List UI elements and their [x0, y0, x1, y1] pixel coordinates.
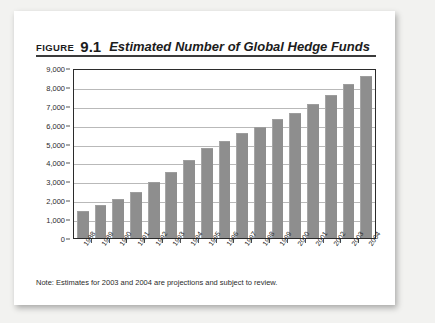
y-axis: 9,0008,0007,0006,0005,0004,0003,0002,000… [36, 69, 70, 239]
bar-1992 [148, 182, 160, 238]
plot-area [73, 69, 376, 239]
bar-slot [216, 70, 234, 238]
bar-slot [74, 70, 92, 238]
y-axis-tick-mark [66, 201, 70, 202]
bar-slot [340, 70, 358, 238]
bar-slot [304, 70, 322, 238]
bar-2000 [289, 113, 301, 238]
bar-1993 [165, 172, 177, 238]
y-axis-tick-label: 2,000 [46, 197, 65, 206]
figure-card: FIGURE 9.1 Estimated Number of Global He… [14, 11, 395, 305]
bar-1999 [272, 119, 284, 238]
bar-1994 [183, 160, 195, 238]
bar-slot [92, 70, 110, 238]
bar-slot [180, 70, 198, 238]
figure-note: Note: Estimates for 2003 and 2004 are pr… [36, 278, 277, 287]
bar-2001 [307, 104, 319, 238]
y-axis-tick-mark [66, 239, 70, 240]
y-axis-tick-mark [66, 182, 70, 183]
y-axis-tick-label: 4,000 [46, 159, 65, 168]
y-axis-tick-label: 0 [61, 235, 65, 244]
y-axis-tick-mark [66, 87, 70, 88]
bar-slot [145, 70, 163, 238]
figure-title: Estimated Number of Global Hedge Funds [109, 39, 370, 55]
y-axis-tick-mark [66, 69, 70, 70]
y-axis-tick-mark [66, 163, 70, 164]
bar-1996 [219, 141, 231, 238]
bar-1997 [236, 133, 248, 238]
x-axis: 1988198919901991199219931994199519961997… [73, 243, 376, 273]
y-axis-tick-label: 5,000 [46, 140, 65, 149]
bar-slot [322, 70, 340, 238]
bar-1990 [112, 199, 124, 238]
bar-slot [357, 70, 375, 238]
y-axis-tick-label: 7,000 [46, 102, 65, 111]
bars-container [74, 70, 375, 238]
figure-heading: FIGURE 9.1 Estimated Number of Global He… [36, 31, 376, 57]
bar-chart: 9,0008,0007,0006,0005,0004,0003,0002,000… [36, 69, 376, 269]
figure-number: 9.1 [80, 38, 101, 55]
figure-label: FIGURE [36, 42, 74, 55]
bar-slot [198, 70, 216, 238]
y-axis-tick-label: 9,000 [46, 65, 65, 74]
y-axis-tick-mark [66, 220, 70, 221]
bar-slot [286, 70, 304, 238]
y-axis-tick-mark [66, 144, 70, 145]
y-axis-tick-label: 8,000 [46, 83, 65, 92]
bar-1995 [201, 148, 213, 238]
bar-1998 [254, 127, 266, 239]
bar-2002 [325, 95, 337, 238]
bar-1991 [130, 192, 142, 238]
bar-slot [163, 70, 181, 238]
y-axis-tick-mark [66, 125, 70, 126]
y-axis-tick-label: 1,000 [46, 216, 65, 225]
bar-slot [251, 70, 269, 238]
bar-slot [269, 70, 287, 238]
bar-slot [109, 70, 127, 238]
y-axis-tick-mark [66, 106, 70, 107]
bar-2004 [360, 76, 372, 238]
bar-2003 [343, 84, 355, 238]
bar-slot [233, 70, 251, 238]
y-axis-tick-label: 6,000 [46, 121, 65, 130]
bar-slot [127, 70, 145, 238]
y-axis-tick-label: 3,000 [46, 178, 65, 187]
